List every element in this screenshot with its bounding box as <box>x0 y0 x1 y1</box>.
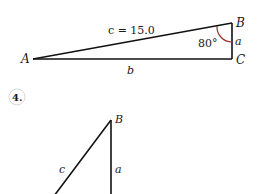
vertex-b-label: B <box>235 16 245 30</box>
vertex-b-label: B <box>114 113 123 126</box>
triangle-top: A B C c = 15.0 a b 80° <box>20 16 245 77</box>
side-c-label: c = 15.0 <box>108 24 155 37</box>
side-a-label: a <box>115 163 122 176</box>
side-c <box>54 120 111 194</box>
problem-number-label: 4. <box>12 92 22 103</box>
diagram-canvas: A B C c = 15.0 a b 80° 4. B c a <box>0 0 261 194</box>
angle-label: 80° <box>198 37 218 50</box>
side-a-label: a <box>235 35 242 48</box>
triangle-bottom: B c a <box>54 113 123 194</box>
vertex-a-label: A <box>20 52 30 66</box>
vertex-c-label: C <box>236 53 245 67</box>
side-c-label: c <box>59 163 65 176</box>
problem-number: 4. <box>9 89 25 105</box>
angle-arc-icon <box>217 26 232 42</box>
side-b-label: b <box>127 64 134 77</box>
